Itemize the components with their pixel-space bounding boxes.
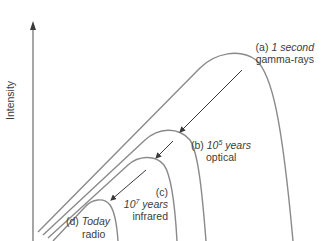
label-b-band: optical — [206, 151, 236, 163]
label-d-tag: (d) — [66, 215, 79, 227]
label-a: (a) 1 second — [232, 41, 314, 53]
label-c-time-unit: years — [142, 198, 168, 210]
label-b: (b) 105 years — [191, 139, 251, 151]
label-c-time-exp: 7 — [135, 198, 139, 205]
y-axis-arrow-icon — [30, 21, 36, 30]
y-axis-label: Intensity — [4, 81, 16, 120]
label-c-time: 107 years — [110, 198, 168, 210]
label-a-band: gamma-rays — [232, 53, 314, 65]
label-d: (d) Today — [66, 215, 110, 227]
label-b-time-exp: 5 — [218, 139, 222, 146]
label-d-time: Today — [82, 215, 110, 227]
label-c-tag: (c) — [120, 186, 168, 198]
label-b-time-base: 10 — [207, 139, 219, 151]
label-d-band: radio — [82, 228, 105, 240]
label-b-tag: (b) — [191, 139, 204, 151]
label-c-time-base: 10 — [124, 198, 136, 210]
label-a-time: 1 second — [271, 41, 314, 53]
arrow-b-to-c — [156, 141, 173, 158]
label-a-tag: (a) — [256, 41, 269, 53]
label-c-band: infrared — [110, 210, 168, 222]
label-b-time-unit: years — [225, 139, 251, 151]
